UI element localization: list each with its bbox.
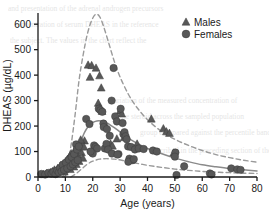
x-tick-label: 80	[251, 183, 263, 194]
chart-legend: MalesFemales	[182, 17, 232, 40]
data-points-layer	[38, 61, 245, 179]
y-tick-label: 500	[14, 44, 31, 55]
tick-labels-layer: 010020030040050060001020304050607080Age …	[1, 19, 263, 209]
data-point-females	[86, 120, 93, 127]
data-point-females	[108, 97, 115, 104]
data-point-males	[97, 84, 105, 91]
y-tick-label: 200	[14, 121, 31, 132]
x-tick-label: 60	[197, 183, 209, 194]
x-tick-label: 70	[224, 183, 236, 194]
data-point-females	[87, 148, 94, 155]
x-axis-title: Age (years)	[120, 197, 174, 209]
data-point-females	[99, 108, 106, 115]
x-tick-label: 50	[169, 183, 181, 194]
data-point-males	[147, 115, 155, 122]
data-point-females	[117, 105, 124, 112]
x-tick-label: 10	[60, 183, 72, 194]
legend-marker-circle-icon	[182, 30, 190, 38]
data-point-females	[106, 132, 113, 139]
data-point-males	[96, 72, 104, 79]
data-point-females	[74, 156, 81, 163]
chart-canvas: 010020030040050060001020304050607080Age …	[0, 0, 269, 220]
data-point-females	[130, 155, 137, 162]
legend-label-females: Females	[194, 29, 232, 40]
data-point-females	[103, 125, 110, 132]
data-point-females	[114, 151, 121, 158]
y-tick-label: 400	[14, 70, 31, 81]
x-tick-label: 30	[115, 183, 127, 194]
data-point-females	[123, 136, 130, 143]
data-point-females	[153, 148, 160, 155]
data-point-females	[180, 163, 187, 170]
x-tick-label: 0	[35, 183, 41, 194]
data-point-females	[75, 143, 82, 150]
y-axis-title: DHEAS (µg/dL)	[1, 59, 13, 132]
data-point-females	[237, 166, 244, 173]
y-tick-label: 0	[25, 172, 31, 183]
x-tick-label: 20	[87, 183, 99, 194]
x-tick-label: 40	[142, 183, 154, 194]
data-point-males	[86, 73, 94, 80]
y-tick-label: 100	[14, 146, 31, 157]
y-tick-label: 600	[14, 19, 31, 30]
dheas-age-scatter-chart: 010020030040050060001020304050607080Age …	[0, 0, 269, 220]
legend-label-males: Males	[194, 17, 221, 28]
legend-marker-triangle-icon	[182, 18, 190, 25]
y-tick-label: 300	[14, 95, 31, 106]
data-point-females	[140, 145, 147, 152]
data-point-females	[119, 119, 126, 126]
data-point-males	[113, 135, 121, 142]
data-point-females	[110, 64, 117, 71]
data-point-females	[171, 153, 178, 160]
